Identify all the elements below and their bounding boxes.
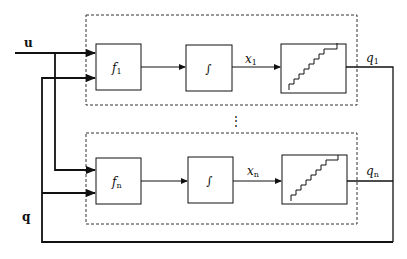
integrator-label-1: ∫ xyxy=(205,62,212,76)
output-label-n: qn xyxy=(366,164,379,179)
input-label-u: u xyxy=(24,36,33,50)
state-label-n: xn xyxy=(247,164,259,179)
function-label-1: f1 xyxy=(111,61,122,76)
feedback-label-q: q xyxy=(22,210,31,224)
quantized-state-system-diagram: f1 ∫ x1 q1 ⋮ fn ∫ xn qn u q xyxy=(0,0,407,259)
function-label-n: fn xyxy=(111,175,122,190)
output-label-1: q1 xyxy=(366,51,379,66)
channel-n-container xyxy=(86,133,357,224)
staircase-icon xyxy=(291,155,338,201)
ellipsis: ⋮ xyxy=(230,114,242,128)
integrator-label-n: ∫ xyxy=(206,174,213,188)
quantizer-block-1 xyxy=(281,44,346,93)
state-label-1: x1 xyxy=(245,52,257,67)
quantizer-block-n xyxy=(282,155,347,204)
staircase-icon xyxy=(289,43,337,90)
